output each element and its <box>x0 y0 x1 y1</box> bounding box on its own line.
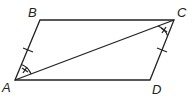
vertex-label-c: C <box>177 5 187 20</box>
vertex-label-d: D <box>152 82 161 97</box>
parallelogram-diagram: A B C D <box>0 0 196 106</box>
vertex-label-a: A <box>1 80 11 95</box>
diagonal-ac <box>15 20 174 80</box>
angle-mark-a-2 <box>23 67 27 73</box>
vertex-label-b: B <box>28 5 37 20</box>
